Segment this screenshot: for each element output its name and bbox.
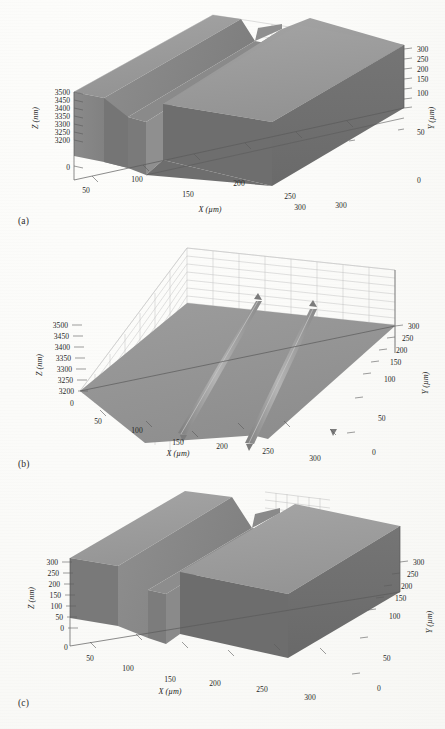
surface-plot-c: 300 250 200 150 100 50 0 Z (nm) 0 50 100… — [0, 486, 445, 729]
z-tick-c-6: 300 — [47, 558, 59, 567]
x-tick-b-0: 0 — [70, 399, 74, 408]
x-tick-c-6: 300 — [304, 693, 316, 702]
z-tick-c-4: 200 — [49, 580, 61, 589]
z-tick-b-1: 3250 — [58, 376, 73, 385]
x-tick-c-3: 150 — [164, 675, 176, 684]
z-tick-b-2: 3300 — [57, 365, 72, 374]
y-tick-c-6: 300 — [413, 558, 425, 567]
z-axis-ticks-b — [72, 325, 88, 391]
y-tick-b-4: 200 — [396, 346, 408, 355]
x-tick-c-2: 100 — [122, 664, 134, 673]
y-tick-b-0: 0 — [372, 448, 376, 457]
y-tick-b-1: 50 — [378, 414, 386, 423]
x-tick-c-1: 50 — [86, 654, 94, 663]
y-axis-label-a: Y (µm) — [427, 106, 436, 129]
panel-caption-a: (a) — [18, 216, 29, 226]
y-tick-a-3: 150 — [417, 75, 429, 84]
z-tick-a-0: 3200 — [55, 136, 70, 145]
z-tick-a-zero: 0 — [66, 163, 70, 172]
y-tick-c-4: 200 — [401, 582, 413, 591]
y-tick-a-6: 300 — [417, 45, 429, 54]
surface-plot-b: 3500 3450 3400 3350 3300 3250 3200 Z (nm… — [0, 243, 445, 486]
x-tick-b-6: 300 — [309, 454, 321, 463]
y-tick-b-2: 100 — [384, 375, 396, 384]
x-axis-label-c: X (µm) — [157, 687, 181, 696]
x-tick-a-4: 200 — [233, 179, 245, 188]
y-tick-b-3: 150 — [390, 358, 402, 367]
z-tick-b-6: 3500 — [53, 321, 68, 330]
y-tick-c-5: 250 — [407, 570, 419, 579]
surface-plot-a: 3500 3450 3400 3350 3300 3250 3200 0 Z (… — [0, 0, 445, 243]
z-tick-c-2: 100 — [51, 602, 63, 611]
y-axis-label-c: Y (µm) — [425, 610, 434, 633]
y-tick-b-6: 300 — [408, 322, 420, 331]
y-tick-b-5: 250 — [402, 334, 414, 343]
figure-panel-a: 3500 3450 3400 3350 3300 3250 3200 0 Z (… — [0, 0, 445, 243]
y-tick-c-0: 0 — [377, 684, 381, 693]
x-axis-label-b: X (µm) — [165, 449, 189, 458]
surface-mesh-b — [80, 293, 395, 451]
x-tick-b-2: 100 — [131, 426, 143, 435]
x-tick-b-4: 200 — [216, 442, 228, 451]
x-tick-a-3: 150 — [182, 190, 194, 199]
x-tick-a-6: 300 — [335, 201, 347, 210]
z-tick-c-0: 0 — [60, 624, 64, 633]
x-tick-c-4: 200 — [209, 679, 221, 688]
x-axis-label-a: X (µm) — [197, 205, 221, 214]
panel-caption-b: (b) — [18, 459, 30, 469]
y-tick-a-0: 0 — [417, 176, 421, 185]
z-axis-label-b: Z (nm) — [35, 354, 44, 376]
z-tick-b-0: 3200 — [59, 387, 74, 396]
figure-panel-c: 300 250 200 150 100 50 0 Z (nm) 0 50 100… — [0, 486, 445, 729]
x-tick-c-5: 250 — [256, 685, 268, 694]
x-tick-a-1: 50 — [82, 186, 90, 195]
panel-caption-c: (c) — [18, 698, 29, 708]
surface-mesh-a — [74, 15, 404, 186]
y-axis-ticks-a — [404, 48, 412, 108]
z-tick-c-3: 150 — [50, 591, 62, 600]
y-tick-c-3: 150 — [395, 594, 407, 603]
x-tick-b-1: 50 — [94, 417, 102, 426]
z-axis-label-c: Z (nm) — [27, 587, 36, 609]
y-tick-a-4: 200 — [417, 65, 429, 74]
y-tick-c-2: 100 — [389, 612, 401, 621]
y-tick-a-1: 50 — [417, 128, 425, 137]
y-tick-a-2: 100 — [417, 89, 429, 98]
x-tick-b-3: 150 — [172, 438, 184, 447]
z-tick-c-5: 250 — [48, 569, 60, 578]
x-tick-b-5: 250 — [262, 447, 274, 456]
x-tick-a-2: 100 — [131, 175, 143, 184]
z-tick-b-3: 3350 — [56, 354, 71, 363]
figure-panel-b: 3500 3450 3400 3350 3300 3250 3200 Z (nm… — [0, 243, 445, 486]
z-tick-c-1: 50 — [55, 613, 63, 622]
surface-mesh-c — [70, 491, 400, 714]
x-tick-a-extra: 300 — [294, 203, 306, 212]
z-tick-b-5: 3450 — [54, 332, 69, 341]
x-tick-a-5: 250 — [284, 192, 296, 201]
z-axis-label-a: Z (nm) — [31, 107, 40, 129]
x-tick-c-0: 0 — [64, 643, 68, 652]
z-tick-b-4: 3400 — [55, 343, 70, 352]
y-axis-label-b: Y (µm) — [421, 371, 430, 394]
y-tick-a-5: 250 — [417, 55, 429, 64]
y-tick-c-1: 50 — [383, 654, 391, 663]
